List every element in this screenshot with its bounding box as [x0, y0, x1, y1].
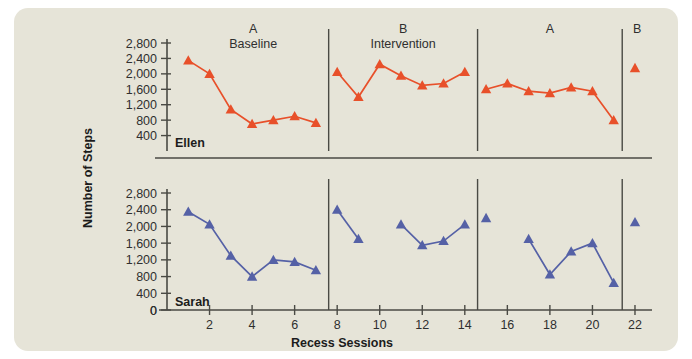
x-tick-label: 8 — [334, 318, 341, 332]
data-point — [204, 219, 214, 228]
data-point — [502, 78, 512, 87]
data-point — [587, 238, 597, 247]
y-tick-label: 2,800 — [126, 37, 157, 51]
series-line-4 — [529, 239, 614, 283]
series-line-2 — [401, 224, 465, 245]
data-point — [332, 67, 342, 76]
phase-letter-0: A — [249, 22, 258, 36]
chart-svg: ABaselineBInterventionAB4008001,2001,600… — [14, 8, 678, 351]
y-tick-label: 2,400 — [126, 203, 157, 217]
y-axis-title: Number of Steps — [81, 128, 95, 228]
phase-letter-3: B — [633, 22, 641, 36]
y-tick-label: 400 — [136, 287, 157, 301]
phase-name-0: Baseline — [229, 37, 277, 51]
data-point — [183, 207, 193, 216]
x-tick-label: 4 — [249, 318, 256, 332]
data-point — [460, 219, 470, 228]
x-axis-title: Recess Sessions — [291, 336, 393, 350]
series-line-1 — [337, 64, 465, 97]
y-tick-label: 2,400 — [126, 52, 157, 66]
data-point — [630, 217, 640, 226]
y-tick-label: 1,600 — [126, 237, 157, 251]
participant-label-ellen: Ellen — [175, 136, 205, 150]
series-line-1 — [337, 210, 358, 239]
x-tick-label: 2 — [206, 318, 213, 332]
phase-letter-2: A — [546, 22, 555, 36]
data-point — [460, 67, 470, 76]
y-tick-label: 1,200 — [126, 98, 157, 112]
x-tick-label: 16 — [500, 318, 514, 332]
phase-name-1: Intervention — [370, 37, 435, 51]
data-point — [396, 219, 406, 228]
y-tick-label: 400 — [136, 129, 157, 143]
x-tick-label: 22 — [628, 318, 642, 332]
x-tick-label: 12 — [415, 318, 429, 332]
y-tick-label-zero: 0 — [150, 304, 157, 318]
y-tick-label: 800 — [136, 114, 157, 128]
y-tick-label: 2,000 — [126, 220, 157, 234]
data-point — [523, 234, 533, 243]
series-line-0 — [188, 60, 316, 124]
data-point — [396, 71, 406, 80]
data-point — [183, 55, 193, 64]
data-point — [630, 63, 640, 72]
data-point — [289, 111, 299, 120]
data-point — [332, 205, 342, 214]
data-point — [268, 255, 278, 264]
x-tick-label: 18 — [543, 318, 557, 332]
y-tick-label: 1,200 — [126, 253, 157, 267]
series-line-0 — [188, 212, 316, 277]
data-point — [226, 104, 236, 113]
data-point — [609, 278, 619, 287]
phase-letter-1: B — [399, 22, 407, 36]
data-point — [226, 250, 236, 259]
x-tick-label: 14 — [458, 318, 472, 332]
data-point — [438, 78, 448, 87]
y-tick-label: 800 — [136, 270, 157, 284]
panel-sarah: 04008001,2001,6002,0002,4002,800Sarah — [126, 179, 640, 318]
participant-label-sarah: Sarah — [175, 295, 210, 309]
data-point — [375, 59, 385, 68]
x-tick-label: 6 — [291, 318, 298, 332]
y-tick-label: 2,000 — [126, 67, 157, 81]
y-tick-label: 2,800 — [126, 187, 157, 201]
x-tick-label: 20 — [585, 318, 599, 332]
figure-panel: ABaselineBInterventionAB4008001,2001,600… — [14, 8, 678, 351]
data-point — [481, 213, 491, 222]
data-point — [566, 82, 576, 91]
data-point — [204, 69, 214, 78]
x-tick-label: 10 — [373, 318, 387, 332]
y-tick-label: 1,600 — [126, 83, 157, 97]
